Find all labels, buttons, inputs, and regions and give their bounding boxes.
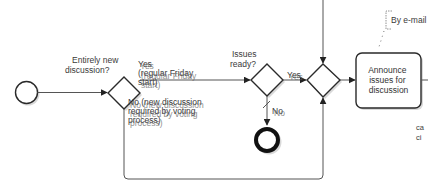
annotation-label: By e-mail bbox=[391, 15, 427, 25]
edge-label-no-new-discussion-ghost: No (new discussion required by voting pr… bbox=[130, 100, 206, 128]
gateway-2-label: Issues ready? bbox=[230, 49, 259, 69]
text-annotation-by-email[interactable]: By e-mail bbox=[386, 11, 427, 29]
bpmn-diagram-canvas: Entirely new discussion? Yes (regular Fr… bbox=[0, 0, 444, 189]
start-event[interactable] bbox=[16, 82, 40, 106]
task-label: Announce issues for discussion bbox=[368, 65, 409, 95]
clipped-text: ca ci bbox=[416, 123, 426, 142]
association-dotted bbox=[378, 31, 384, 50]
gateway-merge[interactable] bbox=[307, 64, 342, 99]
end-event[interactable] bbox=[256, 129, 282, 155]
gateway-issues-ready[interactable] bbox=[251, 64, 285, 98]
edge-label-yes-regular-ghost: Yes (regular Friday start) bbox=[140, 61, 199, 90]
task-announce-issues[interactable]: Announce issues for discussion bbox=[356, 53, 423, 110]
edge-label-issues-no-ghost: No bbox=[274, 108, 285, 118]
edge-label-issues-yes-ghost: Yes bbox=[289, 72, 303, 82]
gateway-1-label: Entirely new discussion? bbox=[65, 55, 121, 75]
